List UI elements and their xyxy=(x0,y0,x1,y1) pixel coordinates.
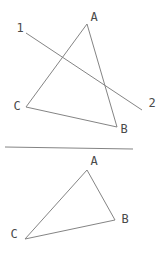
transversal-label-1: 1 xyxy=(16,21,23,35)
top-vertex-label-c: C xyxy=(13,99,20,113)
top-vertex-label-a: A xyxy=(90,10,98,24)
top-vertex-label-b: B xyxy=(120,122,127,136)
transversal-label-2: 2 xyxy=(148,96,155,110)
bottom-vertex-label-a: A xyxy=(90,154,98,168)
transversal-line xyxy=(26,33,142,110)
bottom-vertex-label-b: B xyxy=(121,212,128,226)
bottom-triangle xyxy=(25,170,115,239)
geometry-diagram-svg: A12CBABC xyxy=(0,0,163,261)
bottom-vertex-label-c: C xyxy=(10,227,17,241)
divider-line xyxy=(5,147,133,149)
top-triangle xyxy=(26,24,117,127)
geometry-worksheet: A12CBABC xyxy=(0,0,163,261)
